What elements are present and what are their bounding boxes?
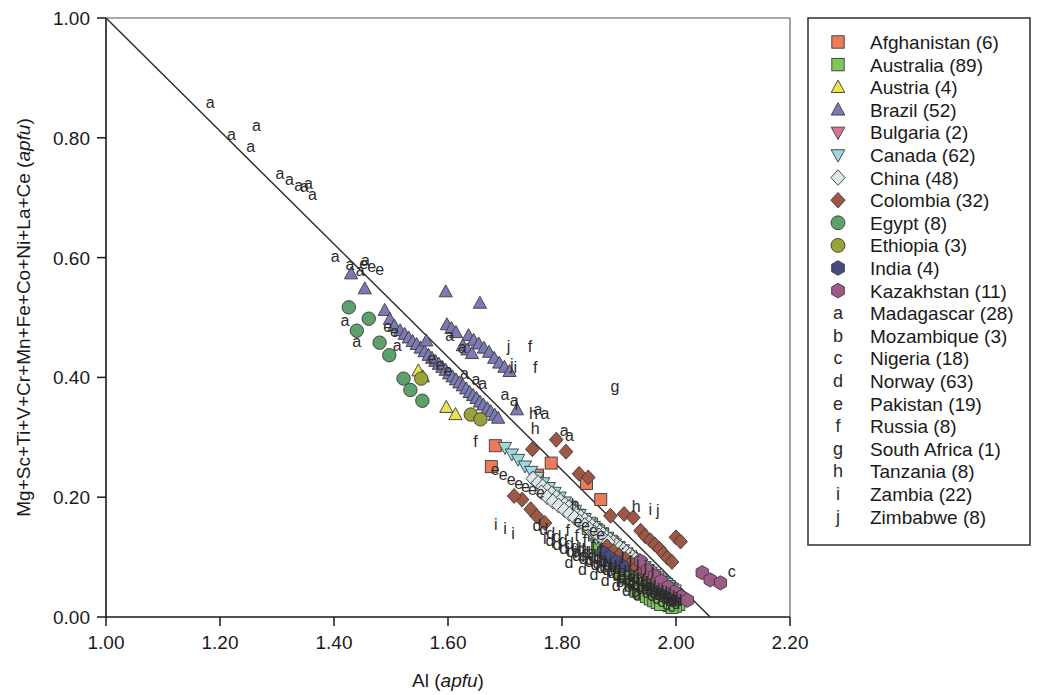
x-tick-label: 1.40: [316, 632, 353, 653]
trendline: [106, 18, 710, 617]
data-point: f: [528, 338, 533, 355]
data-point: [595, 494, 607, 506]
data-point: [525, 442, 539, 457]
data-point: i: [511, 525, 515, 542]
data-point: f: [565, 522, 570, 539]
x-tick-label: 2.00: [658, 632, 695, 653]
y-axis-title: Mg+Sc+Ti+V+Cr+Mn+Fe+Co+Ni+La+Ce (apfu): [13, 118, 34, 517]
data-point: j: [506, 338, 511, 355]
data-point: a: [252, 117, 261, 134]
data-point: i: [603, 557, 607, 574]
data-point: [373, 336, 386, 349]
data-point: f: [533, 359, 538, 376]
x-tick-label: 1.80: [544, 632, 581, 653]
y-tick-label: 0.60: [53, 248, 90, 269]
legend-marker: [831, 216, 845, 230]
y-tick-label: 0.80: [53, 128, 90, 149]
data-point: [473, 296, 486, 308]
x-tick-label: 1.00: [88, 632, 125, 653]
data-point: a: [352, 333, 361, 350]
data-point: a: [540, 405, 549, 422]
data-point: i: [551, 534, 555, 551]
legend-label: Australia (89): [870, 55, 983, 76]
data-point: [559, 444, 573, 459]
legend-label: India (4): [870, 258, 940, 279]
data-point: [545, 457, 557, 469]
data-point: [681, 593, 693, 607]
legend-label: Austria (4): [870, 77, 958, 98]
data-point: j: [635, 554, 640, 571]
legend-marker-letter: h: [833, 461, 843, 481]
data-point: a: [308, 186, 317, 203]
data-point: i: [581, 548, 585, 565]
data-point: a: [227, 126, 236, 143]
data-point: a: [346, 256, 355, 273]
data-point: a: [246, 138, 255, 155]
legend-label: Norway (63): [870, 371, 973, 392]
data-point: h: [632, 498, 641, 515]
legend-label: Afghanistan (6): [870, 32, 999, 53]
data-point: [474, 413, 487, 426]
data-point: a: [275, 165, 284, 182]
data-point: h: [531, 420, 540, 437]
data-point: j: [509, 356, 514, 373]
data-point: [416, 394, 429, 407]
data-point: a: [478, 375, 487, 392]
y-tick-label: 0.00: [53, 607, 90, 628]
series-south-africa: g: [611, 378, 620, 395]
legend-label: Brazil (52): [870, 100, 957, 121]
data-point: i: [513, 359, 517, 376]
data-point: a: [458, 339, 467, 356]
x-axis-title-main: Al (: [412, 670, 441, 691]
data-point: i: [623, 566, 627, 583]
data-points-group: aaaaaaaaaaaaaaaaaaaaaaaaaaaabbbccccccccc…: [206, 94, 736, 615]
data-point: j: [642, 558, 647, 575]
legend-label: Colombia (32): [870, 190, 989, 211]
data-point: j: [628, 550, 633, 567]
legend-marker: [832, 261, 845, 276]
y-axis-title-main: Mg+Sc+Ti+V+Cr+Mn+Fe+Co+Ni+La+Ce (: [13, 161, 34, 517]
data-point: e: [375, 261, 384, 278]
legend-marker: [832, 36, 844, 48]
data-point: i: [574, 544, 578, 561]
data-point: a: [501, 386, 510, 403]
data-point: [362, 312, 375, 325]
data-point: a: [565, 427, 574, 444]
series-egypt: [342, 301, 429, 408]
data-point: a: [340, 312, 349, 329]
legend-marker-letter: i: [836, 484, 840, 504]
y-axis-title-unit: apfu: [13, 124, 34, 161]
legend-label: Zambia (22): [870, 484, 972, 505]
legend-label: Kazakhstan (11): [870, 281, 1007, 302]
data-point: a: [460, 365, 469, 382]
data-point: i: [596, 554, 600, 571]
chart-canvas: 1.001.201.401.601.802.002.200.000.200.40…: [0, 0, 1037, 695]
x-tick-label: 1.60: [430, 632, 467, 653]
data-point: i: [494, 516, 498, 533]
data-point: [358, 282, 371, 294]
data-point: a: [206, 94, 215, 111]
legend-label: Nigeria (18): [870, 348, 969, 369]
series-brazil: [345, 267, 524, 423]
data-point: i: [629, 568, 633, 585]
x-axis-title-unit: apfu: [441, 670, 478, 691]
data-point: i: [648, 577, 652, 594]
legend-marker-letter: j: [835, 507, 840, 527]
legend-label: China (48): [870, 168, 959, 189]
y-tick-label: 0.40: [53, 367, 90, 388]
series-madagascar: aaaaaaaaaaaaaaaaaaaaaaaaaaaa: [206, 94, 574, 444]
legend-marker-letter: a: [833, 303, 844, 323]
data-point: c: [728, 563, 736, 580]
data-point: [604, 508, 618, 523]
legend-marker-letter: d: [833, 371, 843, 391]
x-tick-label: 2.20: [772, 632, 809, 653]
data-point: [439, 285, 452, 297]
data-point: e: [536, 484, 545, 501]
data-point: a: [331, 248, 340, 265]
legend-marker-letter: e: [833, 394, 843, 414]
legend-label: Mozambique (3): [870, 326, 1007, 347]
legend-label: Pakistan (19): [870, 394, 982, 415]
data-point: j: [620, 546, 625, 563]
legend-label: Canada (62): [870, 145, 976, 166]
data-point: f: [473, 433, 478, 450]
